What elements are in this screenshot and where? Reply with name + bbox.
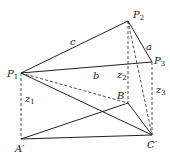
label-z2: z2 xyxy=(116,69,127,82)
label-edge-b: b xyxy=(93,70,99,81)
label-z3: z3 xyxy=(155,84,166,97)
label-p3: P3 xyxy=(153,55,165,68)
label-z1: z1 xyxy=(24,93,35,106)
label-p1: P1 xyxy=(6,68,18,81)
dashed-p2-c xyxy=(128,21,152,135)
edge-p1-c xyxy=(21,73,152,135)
edge-a-c xyxy=(21,135,152,139)
label-a-prime: A′ xyxy=(14,143,25,154)
edge-a-b xyxy=(21,103,128,139)
projection-diagram: P1 P2 P3 A′ B′ C′ c a b z1 z2 z3 xyxy=(0,0,170,166)
label-p2: P2 xyxy=(132,9,144,22)
label-edge-c: c xyxy=(70,36,76,47)
label-edge-a: a xyxy=(146,41,152,52)
label-c-prime: C′ xyxy=(147,139,158,150)
label-b-prime: B′ xyxy=(116,90,127,101)
